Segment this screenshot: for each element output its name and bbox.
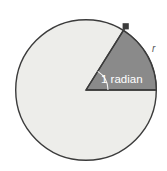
radian-diagram-figure: Circle with a one radian sector 1 radian… bbox=[0, 0, 167, 171]
arc-endpoint-dot bbox=[123, 23, 129, 29]
radius-label: r bbox=[152, 43, 156, 54]
angle-label: 1 radian bbox=[101, 73, 143, 85]
radian-diagram-canvas: Circle with a one radian sector 1 radian… bbox=[0, 0, 167, 171]
